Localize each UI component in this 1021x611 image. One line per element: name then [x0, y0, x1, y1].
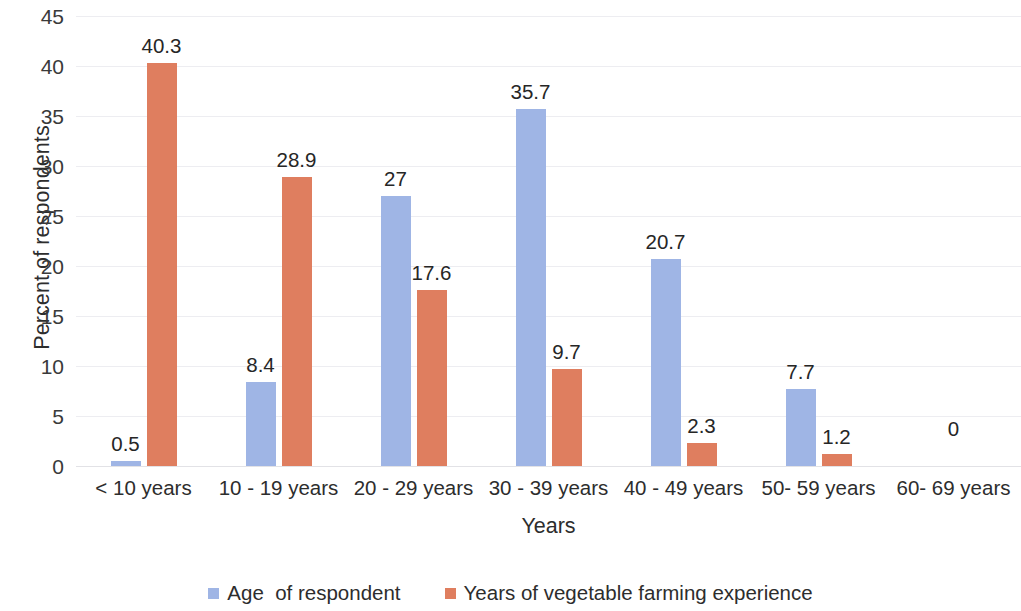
x-axis-tick-labels: < 10 years10 - 19 years20 - 29 years30 -…: [76, 476, 1021, 506]
bar: [822, 454, 852, 466]
x-axis-tick-label: 10 - 19 years: [211, 476, 346, 500]
bar-group: 20.72.3: [616, 16, 751, 466]
x-axis-tick-label: 40 - 49 years: [616, 476, 751, 500]
bar-value-label: 28.9: [260, 150, 334, 171]
bar-value-label: 0: [886, 419, 1021, 440]
x-axis-tick-label: 30 - 39 years: [481, 476, 616, 500]
bar: [111, 461, 141, 466]
bar-value-label: 7.7: [764, 362, 838, 383]
legend-item[interactable]: Age of respondent: [208, 583, 400, 604]
bar-value-label: 20.7: [629, 232, 703, 253]
bar: [516, 109, 546, 466]
x-axis-title: Years: [76, 514, 1021, 539]
bar: [282, 177, 312, 466]
bar-group: 0.540.3: [76, 16, 211, 466]
y-axis-tick-label: 35: [4, 106, 64, 127]
chart-legend: Age of respondentYears of vegetable farm…: [0, 583, 1021, 604]
bar-value-label: 9.7: [530, 342, 604, 363]
bar-value-label: 27: [359, 169, 433, 190]
x-axis-tick-label: 60- 69 years: [886, 476, 1021, 500]
legend-label: Years of vegetable farming experience: [464, 583, 813, 604]
legend-label: Age of respondent: [227, 583, 400, 604]
bar: [381, 196, 411, 466]
bar-value-label: 40.3: [125, 36, 199, 57]
bar-value-label: 17.6: [395, 263, 469, 284]
plot-area: 0.540.38.428.92717.635.79.720.72.37.71.2…: [76, 16, 1021, 466]
legend-item[interactable]: Years of vegetable farming experience: [445, 583, 813, 604]
y-axis-tick-label: 30: [4, 156, 64, 177]
gridline: [76, 466, 1021, 467]
bar-chart: Percent of respondents 05101520253035404…: [0, 0, 1021, 611]
bar-value-label: 35.7: [494, 82, 568, 103]
bar-value-label: 2.3: [665, 416, 739, 437]
y-axis-tick-label: 15: [4, 306, 64, 327]
bar: [687, 443, 717, 466]
y-axis-tick-label: 20: [4, 256, 64, 277]
x-axis-tick-label: < 10 years: [76, 476, 211, 500]
y-axis-tick-labels: 051015202530354045: [0, 16, 64, 466]
x-axis-tick-label: 20 - 29 years: [346, 476, 481, 500]
bar: [552, 369, 582, 466]
bar: [417, 290, 447, 466]
bar: [147, 63, 177, 466]
y-axis-tick-label: 45: [4, 6, 64, 27]
bar-group: 35.79.7: [481, 16, 616, 466]
bar-group: 2717.6: [346, 16, 481, 466]
bar-group: 8.428.9: [211, 16, 346, 466]
legend-swatch-icon: [208, 588, 219, 599]
y-axis-tick-label: 25: [4, 206, 64, 227]
y-axis-tick-label: 40: [4, 56, 64, 77]
bar: [246, 382, 276, 466]
legend-swatch-icon: [445, 588, 456, 599]
bar-value-label: 1.2: [800, 427, 874, 448]
bar-group: [886, 16, 1021, 466]
y-axis-tick-label: 5: [4, 406, 64, 427]
x-axis-tick-label: 50- 59 years: [751, 476, 886, 500]
y-axis-tick-label: 0: [4, 456, 64, 477]
bar-group: 7.71.2: [751, 16, 886, 466]
y-axis-tick-label: 10: [4, 356, 64, 377]
